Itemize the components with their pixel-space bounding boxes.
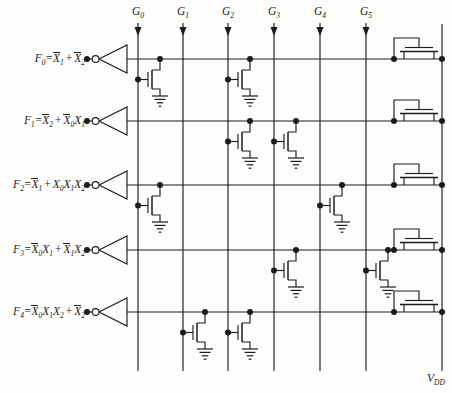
gate-junction-dot (363, 268, 369, 274)
gate-junction-dot (225, 139, 231, 145)
drain-junction-dot (202, 309, 208, 315)
down-arrow-icon (180, 27, 187, 36)
nmos-source-lead (288, 151, 296, 158)
nmos-source-lead (152, 215, 160, 222)
gate-junction-dot (317, 203, 323, 209)
pla-circuit-figure: G0G1G2G3G4G5VDDF0=X1+X2F1=X2+X0X1F2=X1+X… (0, 0, 452, 393)
inverter-bubble-icon (92, 182, 99, 189)
inverter-bubble-icon (92, 247, 99, 254)
gate-junction-dot (225, 77, 231, 83)
column-label-G4: G4 (305, 4, 335, 20)
vdd-label: VDD (427, 371, 445, 387)
load-drain-vdd-dot (439, 56, 445, 62)
load-drain-vdd-dot (439, 309, 445, 315)
gate-junction-dot (271, 139, 277, 145)
gate-junction-dot (135, 203, 141, 209)
nmos-source-lead (152, 89, 160, 96)
load-gate-to-source-loop (394, 291, 419, 312)
load-gate-to-source-loop (394, 100, 419, 121)
down-arrow-icon (135, 27, 142, 36)
inverter-bubble-icon (92, 309, 99, 316)
drain-junction-dot (247, 118, 253, 124)
column-label-G0: G0 (123, 4, 153, 20)
drain-junction-dot (247, 309, 253, 315)
load-gate-to-source-loop (394, 38, 419, 59)
drain-junction-dot (339, 182, 345, 188)
gate-junction-dot (180, 330, 186, 336)
gate-junction-dot (225, 330, 231, 336)
inverter-triangle-icon (99, 298, 127, 326)
down-arrow-icon (225, 27, 232, 36)
inverter-bubble-icon (92, 118, 99, 125)
nmos-source-lead (334, 215, 342, 222)
output-expression-F1: F1=X2+X0X1 (0, 113, 85, 129)
column-label-G3: G3 (259, 4, 289, 20)
drain-junction-dot (157, 56, 163, 62)
nmos-source-lead (380, 280, 388, 287)
column-label-G5: G5 (351, 4, 381, 20)
column-label-G1: G1 (168, 4, 198, 20)
output-expression-F4: F4=X0X1X2+X2 (0, 304, 85, 320)
drain-junction-dot (293, 118, 299, 124)
nmos-source-lead (197, 342, 205, 349)
down-arrow-icon (317, 27, 324, 36)
load-drain-vdd-dot (439, 182, 445, 188)
column-label-G2: G2 (213, 4, 243, 20)
drain-junction-dot (247, 56, 253, 62)
load-gate-to-source-loop (394, 164, 419, 185)
load-drain-vdd-dot (439, 118, 445, 124)
inverter-triangle-icon (99, 45, 127, 73)
gate-junction-dot (135, 77, 141, 83)
inverter-triangle-icon (99, 171, 127, 199)
load-gate-to-source-loop (394, 229, 419, 250)
drain-junction-dot (385, 247, 391, 253)
output-expression-F2: F2=X1+X0X1X2 (0, 177, 85, 193)
load-drain-vdd-dot (439, 247, 445, 253)
drain-junction-dot (157, 182, 163, 188)
output-expression-F3: F3=X0X1+X1X2 (0, 242, 85, 258)
inverter-bubble-icon (92, 56, 99, 63)
inverter-triangle-icon (99, 107, 127, 135)
nmos-source-lead (242, 151, 250, 158)
down-arrow-icon (271, 27, 278, 36)
nmos-source-lead (242, 342, 250, 349)
gate-junction-dot (271, 268, 277, 274)
nmos-source-lead (242, 89, 250, 96)
down-arrow-icon (363, 27, 370, 36)
nmos-source-lead (288, 280, 296, 287)
output-expression-F0: F0=X1+X2 (0, 51, 85, 67)
inverter-triangle-icon (99, 236, 127, 264)
drain-junction-dot (293, 247, 299, 253)
